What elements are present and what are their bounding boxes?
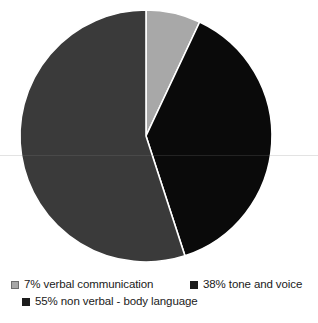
legend-swatch-icon-verbal-communication xyxy=(11,281,19,289)
chart-legend: 7% verbal communication 38% tone and voi… xyxy=(0,272,318,323)
pie-chart-figure: 7% verbal communication 38% tone and voi… xyxy=(0,0,318,323)
legend-label-verbal-communication: 7% verbal communication xyxy=(24,278,153,291)
legend-row: 7% verbal communication 38% tone and voi… xyxy=(0,276,318,293)
legend-label-tone-and-voice: 38% tone and voice xyxy=(203,278,302,291)
legend-row: 55% non verbal - body language xyxy=(0,293,318,310)
legend-item-tone-and-voice[interactable]: 38% tone and voice xyxy=(190,276,302,293)
legend-item-verbal-communication[interactable]: 7% verbal communication xyxy=(11,276,153,293)
legend-swatch-icon-tone-and-voice xyxy=(190,281,198,289)
pie-plot-area xyxy=(0,0,318,270)
pie-svg xyxy=(0,0,318,270)
legend-item-non-verbal-body-language[interactable]: 55% non verbal - body language xyxy=(22,293,198,310)
legend-swatch-icon-non-verbal-body-language xyxy=(22,298,30,306)
pie-slices xyxy=(20,10,272,262)
legend-label-non-verbal-body-language: 55% non verbal - body language xyxy=(35,295,198,308)
